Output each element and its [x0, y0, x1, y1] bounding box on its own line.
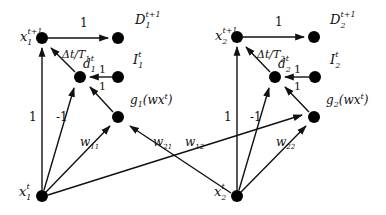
edge-x1-to-g2 [48, 115, 302, 195]
edge-x2-to-d2 [239, 88, 269, 190]
label-I1: I1t [132, 50, 143, 70]
weight-I1-d1-top: 1 [99, 63, 106, 76]
weight-g2-d2: 1 [294, 80, 301, 93]
weight-x1-d1: -1 [56, 110, 68, 124]
label-x2: x2t [214, 182, 226, 202]
label-g1: g1(wxt) [130, 92, 173, 109]
label-I2: I2t [329, 50, 340, 70]
node-D2 [308, 31, 320, 43]
weight-x2-x2next: 1 [224, 110, 232, 124]
edge-x2-to-g1 [130, 126, 231, 193]
label-D1: D1t+1 [134, 10, 161, 30]
edge-x1-to-d1 [44, 88, 74, 190]
label-D2: D2t+1 [329, 10, 356, 30]
weight-d2-x2next: Δt/T2 [256, 48, 285, 63]
node-I1 [112, 71, 124, 83]
node-d1 [74, 71, 86, 83]
label-g2: g2(wxt) [326, 92, 369, 109]
node-x1 [36, 190, 48, 202]
node-g2 [308, 111, 320, 123]
node-D1 [112, 32, 124, 44]
weight-g1-d1: 1 [99, 80, 106, 93]
weight-w22: w22 [276, 135, 296, 151]
label-x1: x1t [19, 182, 31, 202]
weight-d1-x1next: Δt/T1 [61, 48, 90, 63]
weight-w11: w11 [80, 135, 99, 151]
weight-x2next-D2: 1 [275, 15, 283, 29]
weight-x2-d2: -1 [250, 110, 262, 124]
weight-I2-d2-top: 1 [294, 63, 301, 76]
network-diagram: x1t+1 D1t+1 d1t I1t g1(wxt) x1t x2t+1 D2… [0, 0, 386, 215]
edge-x1-to-g1 [46, 126, 110, 192]
node-d2 [269, 71, 281, 83]
node-g1 [112, 111, 124, 123]
weight-w21: w21 [153, 135, 172, 151]
weight-x1next-D1: 1 [80, 16, 88, 30]
weight-x1-x1next: 1 [29, 110, 37, 124]
node-I2 [309, 71, 321, 83]
edge-x2-to-g2 [241, 126, 306, 192]
node-x2 [231, 190, 243, 202]
weight-w12: w12 [185, 135, 205, 151]
